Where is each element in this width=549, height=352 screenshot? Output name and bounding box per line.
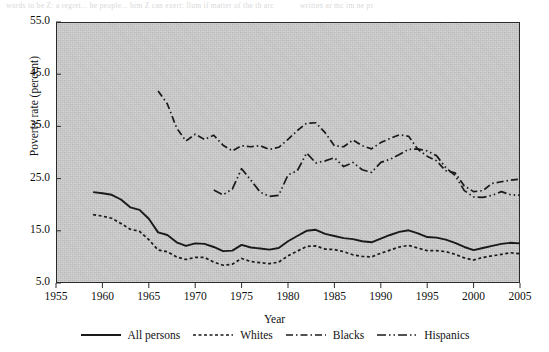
legend-item-all-persons: All persons (80, 329, 181, 341)
legend-label: Hispanics (424, 329, 469, 341)
dash-dot-line-icon (285, 330, 327, 340)
ghost-scan-text-right: written ar mc im ne pr (300, 1, 373, 10)
x-tick-label: 1995 (405, 290, 449, 302)
legend-item-hispanics: Hispanics (376, 329, 469, 341)
series-line-hispanics (214, 149, 520, 198)
series-line-blacks (158, 91, 520, 192)
x-tick-label: 2000 (452, 290, 496, 302)
series-line-all-persons (93, 192, 520, 251)
y-tick-label: 15.0 (8, 223, 50, 235)
x-tick-label: 1970 (173, 290, 217, 302)
legend-label: Whites (240, 329, 273, 341)
poverty-rate-line-chart: words to be Z: a regret... be people... … (0, 0, 549, 352)
series-layer (56, 22, 520, 283)
legend-label: All persons (128, 329, 181, 341)
chart-legend: All personsWhitesBlacksHispanics (0, 329, 549, 341)
y-axis-title: Poverty rate (percent) (28, 26, 40, 186)
legend-item-whites: Whites (192, 329, 273, 341)
x-axis-title: Year (0, 313, 549, 325)
y-tick-label: 5.0 (8, 275, 50, 287)
ghost-scan-text-left: words to be Z: a regret... be people... … (6, 1, 274, 10)
legend-item-blacks: Blacks (285, 329, 364, 341)
dotted-line-icon (192, 330, 234, 340)
legend-label: Blacks (333, 329, 364, 341)
plot-area (56, 22, 520, 283)
dash-dot-dot-line-icon (376, 330, 418, 340)
x-tick-label: 1975 (220, 290, 264, 302)
x-tick-label: 2005 (498, 290, 542, 302)
x-tick-label: 1960 (80, 290, 124, 302)
x-tick-label: 1965 (127, 290, 171, 302)
x-tick-label: 1985 (312, 290, 356, 302)
series-line-whites (93, 215, 520, 266)
x-tick-label: 1980 (266, 290, 310, 302)
x-tick-label: 1990 (359, 290, 403, 302)
y-tick-label: 55.0 (8, 14, 50, 26)
solid-line-icon (80, 330, 122, 340)
x-tick-label: 1955 (34, 290, 78, 302)
